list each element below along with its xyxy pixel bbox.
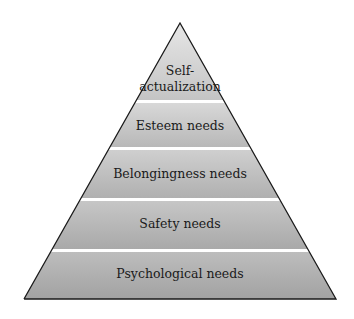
needs-pyramid: Self- actualization Esteem needs Belongi… <box>0 0 354 319</box>
label-self-actualization-line1: Self- <box>166 63 194 78</box>
label-esteem: Esteem needs <box>136 118 224 133</box>
label-belongingness: Belongingness needs <box>113 166 247 181</box>
label-psychological: Psychological needs <box>116 266 243 281</box>
label-safety: Safety needs <box>139 216 220 231</box>
label-self-actualization-line2: actualization <box>139 79 221 94</box>
